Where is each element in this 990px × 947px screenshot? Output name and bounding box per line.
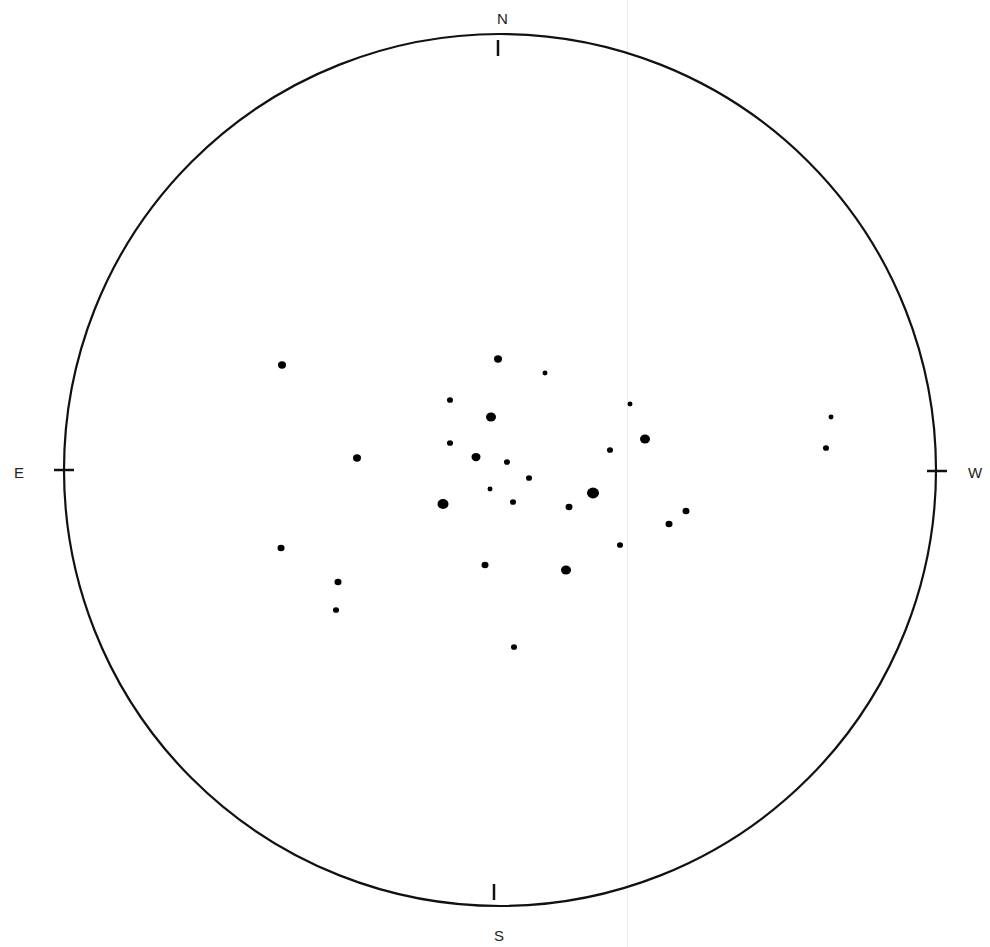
data-point (333, 607, 339, 613)
data-point (335, 579, 342, 586)
data-point (566, 504, 573, 511)
primitive-circle (64, 34, 936, 906)
data-point (482, 562, 489, 569)
data-point (486, 412, 496, 421)
data-point (617, 542, 623, 548)
data-point (278, 361, 286, 368)
data-point (666, 521, 673, 528)
data-point (353, 454, 361, 461)
south-label: S (494, 928, 504, 943)
data-point (438, 499, 449, 509)
data-point (607, 447, 613, 453)
data-point (494, 355, 502, 362)
data-points (278, 355, 834, 650)
data-point (447, 440, 453, 446)
data-point (587, 488, 599, 499)
data-point (510, 499, 516, 505)
data-point (683, 508, 690, 515)
data-point (504, 459, 510, 465)
data-point (511, 644, 517, 650)
data-point (823, 445, 829, 451)
data-point (488, 487, 493, 492)
data-point (278, 545, 285, 552)
data-point (526, 475, 532, 481)
data-point (543, 371, 548, 376)
north-label: N (497, 11, 508, 26)
data-point (561, 565, 571, 574)
data-point (447, 397, 453, 403)
east-label: E (14, 465, 24, 480)
cardinal-ticks (54, 40, 947, 900)
west-label: W (968, 465, 982, 480)
stereonet (0, 0, 990, 947)
data-point (829, 415, 834, 420)
data-point (472, 453, 481, 461)
data-point (640, 434, 650, 443)
data-point (628, 402, 633, 407)
